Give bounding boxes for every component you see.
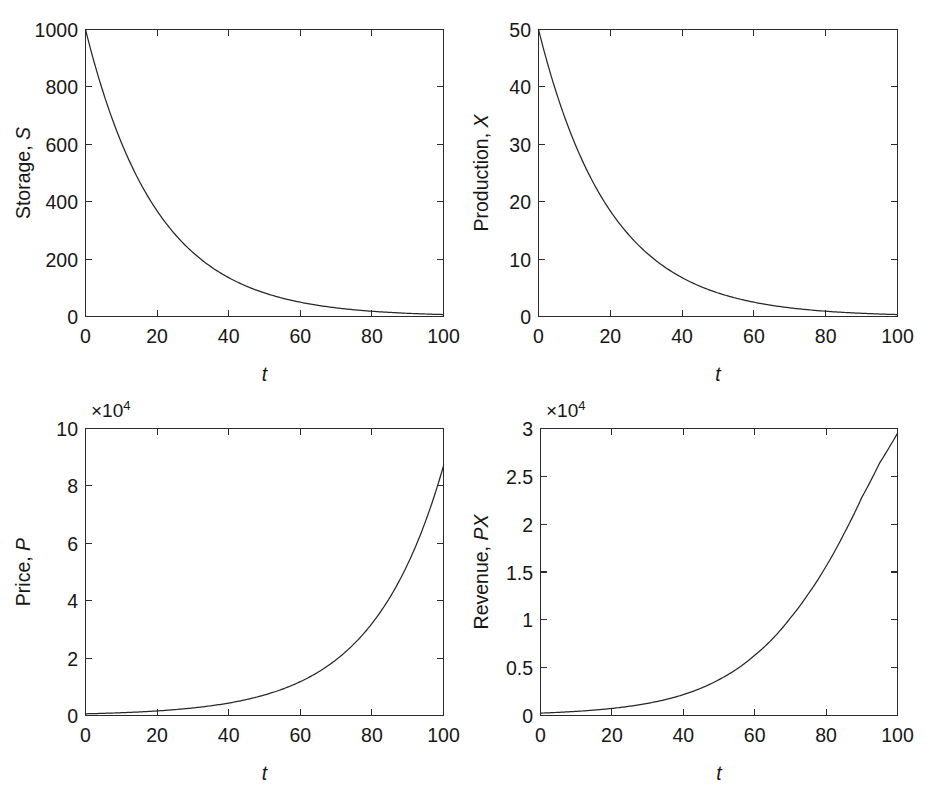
y-ticks-storage (86, 30, 444, 317)
y-ticklabel: 1.5 (506, 562, 533, 584)
x-ticklabel: 100 (881, 325, 914, 347)
panel-storage: 0 200 400 600 800 1000 0 20 40 60 80 100… (0, 0, 463, 399)
x-ticklabel: 40 (672, 724, 694, 746)
y-ticklabel: 1 (522, 609, 533, 631)
y-ticks-production (539, 30, 898, 317)
y-axis-title-production: Production, X (470, 113, 492, 231)
y-ticklabel: 2 (522, 514, 533, 536)
y-ticklabel: 4 (67, 590, 78, 612)
y-ticklabel: 10 (509, 249, 531, 271)
x-ticklabel: 60 (743, 325, 765, 347)
y-ticklabel: 0 (67, 306, 78, 328)
y-ticklabel: 0 (520, 306, 531, 328)
axes-box-revenue (541, 429, 898, 716)
y-ticklabel: 6 (67, 533, 78, 555)
y-ticks-revenue (541, 429, 898, 716)
panel-revenue: 0 0.5 1 1.5 2 2.5 3 0 20 40 60 80 100 ×1… (463, 399, 926, 799)
y-ticklabels-storage: 0 200 400 600 800 1000 (35, 19, 79, 328)
x-ticklabel: 100 (427, 724, 460, 746)
x-ticklabel: 80 (815, 724, 837, 746)
y-ticks-price (86, 429, 444, 716)
y-axis-title-italic: S (12, 127, 34, 140)
panel-production: 0 10 20 30 40 50 0 20 40 60 80 100 Produ… (463, 0, 926, 399)
y-ticklabel: 200 (45, 249, 78, 271)
axes-box-price (86, 429, 444, 716)
curve-production (539, 30, 898, 315)
x-ticklabel: 0 (80, 724, 91, 746)
x-ticklabel: 20 (146, 325, 168, 347)
x-ticklabel: 60 (289, 325, 311, 347)
x-ticklabels-price: 0 20 40 60 80 100 (80, 724, 460, 746)
y-ticklabels-revenue: 0 0.5 1 1.5 2 2.5 3 (506, 418, 533, 727)
x-axis-title-storage: t (262, 363, 269, 385)
y-axis-offset-price: ×104 (91, 398, 130, 422)
y-axis-offset-revenue: ×104 (546, 398, 585, 422)
y-axis-title-italic: P (12, 538, 34, 551)
x-ticklabel: 100 (881, 724, 914, 746)
y-axis-title-price: Price, P (12, 538, 34, 606)
x-ticklabel: 0 (533, 325, 544, 347)
y-ticklabel: 10 (56, 418, 78, 440)
x-ticklabel: 0 (535, 724, 546, 746)
x-axis-title-revenue: t (716, 762, 723, 784)
y-ticklabel: 0.5 (506, 657, 533, 679)
y-ticklabel: 0 (67, 705, 78, 727)
y-axis-title-revenue: Revenue, PX (470, 514, 492, 630)
y-ticklabel: 1000 (35, 19, 79, 41)
curve-revenue (541, 433, 898, 713)
x-ticklabels-production: 0 20 40 60 80 100 (533, 325, 914, 347)
x-ticklabel: 100 (427, 325, 460, 347)
y-axis-offset-base: ×10 (91, 400, 123, 421)
x-ticks-price (86, 429, 444, 716)
y-axis-title-plain: Production, (470, 127, 492, 231)
x-ticklabel: 80 (361, 325, 383, 347)
svg-text:Storage, S: Storage, S (12, 127, 34, 219)
x-ticklabel: 60 (744, 724, 766, 746)
x-ticklabel: 80 (361, 724, 383, 746)
curve-storage (86, 30, 444, 315)
x-ticklabel: 40 (218, 325, 240, 347)
x-ticklabel: 0 (80, 325, 91, 347)
y-ticklabel: 0 (522, 705, 533, 727)
y-axis-offset-base: ×10 (546, 400, 578, 421)
y-ticklabel: 2 (67, 648, 78, 670)
panel-price: 0 2 4 6 8 10 0 20 40 60 80 100 ×104 (0, 399, 463, 799)
x-ticklabel: 20 (146, 724, 168, 746)
svg-text:Production, X: Production, X (470, 113, 492, 231)
y-ticklabel: 30 (509, 134, 531, 156)
y-ticklabel: 20 (509, 191, 531, 213)
curve-price (86, 466, 444, 714)
y-axis-title-storage: Storage, S (12, 127, 34, 219)
x-ticklabel: 80 (815, 325, 837, 347)
y-axis-title-plain: Storage, (12, 140, 34, 219)
y-axis-title-plain: Revenue, (470, 541, 492, 630)
y-axis-title-plain: Price, (12, 551, 34, 606)
x-axis-title-price: t (262, 762, 269, 784)
x-ticklabel: 20 (601, 724, 623, 746)
y-ticklabels-price: 0 2 4 6 8 10 (56, 418, 78, 727)
x-ticks-storage (86, 30, 444, 317)
axes-box-production (539, 30, 898, 317)
y-ticklabel: 50 (509, 19, 531, 41)
y-ticklabel: 800 (45, 76, 78, 98)
y-ticklabel: 40 (509, 76, 531, 98)
x-ticklabel: 60 (289, 724, 311, 746)
y-ticklabels-production: 0 10 20 30 40 50 (509, 19, 531, 328)
svg-text:Price, P: Price, P (12, 538, 34, 606)
y-axis-offset-exponent: 4 (123, 398, 130, 413)
x-ticks-production (539, 30, 898, 317)
x-ticklabel: 20 (599, 325, 621, 347)
axes-box-storage (86, 30, 444, 317)
x-ticklabel: 40 (218, 724, 240, 746)
x-axis-title-production: t (715, 363, 722, 385)
x-ticks-revenue (541, 429, 898, 716)
y-ticklabel: 400 (45, 191, 78, 213)
x-ticklabel: 40 (671, 325, 693, 347)
x-ticklabels-storage: 0 20 40 60 80 100 (80, 325, 460, 347)
y-ticklabel: 3 (522, 418, 533, 440)
svg-text:Revenue, PX: Revenue, PX (470, 514, 492, 630)
y-ticklabel: 600 (45, 134, 78, 156)
four-panel-figure: 0 200 400 600 800 1000 0 20 40 60 80 100… (0, 0, 926, 799)
y-axis-title-italic: X (470, 113, 492, 128)
y-ticklabel: 2.5 (506, 466, 533, 488)
